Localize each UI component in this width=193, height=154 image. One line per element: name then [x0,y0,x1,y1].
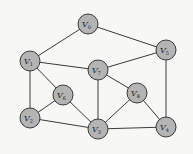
node-v7: V7 [88,60,108,80]
node-v6: V6 [53,85,73,105]
node-v3: V3 [88,119,108,139]
node-v2: V2 [20,108,40,128]
node-v8: V8 [127,83,147,103]
node-v1: V1 [20,51,40,71]
edge-v0-v5 [88,24,166,50]
graph-canvas: V0V1V2V3V4V5V6V7V8 [0,0,193,154]
edge-v5-v7 [98,50,166,70]
graph-diagram: V0V1V2V3V4V5V6V7V8 [0,0,193,154]
node-v5: V5 [156,40,176,60]
node-v0: V0 [78,14,98,34]
node-v4: V4 [156,117,176,137]
